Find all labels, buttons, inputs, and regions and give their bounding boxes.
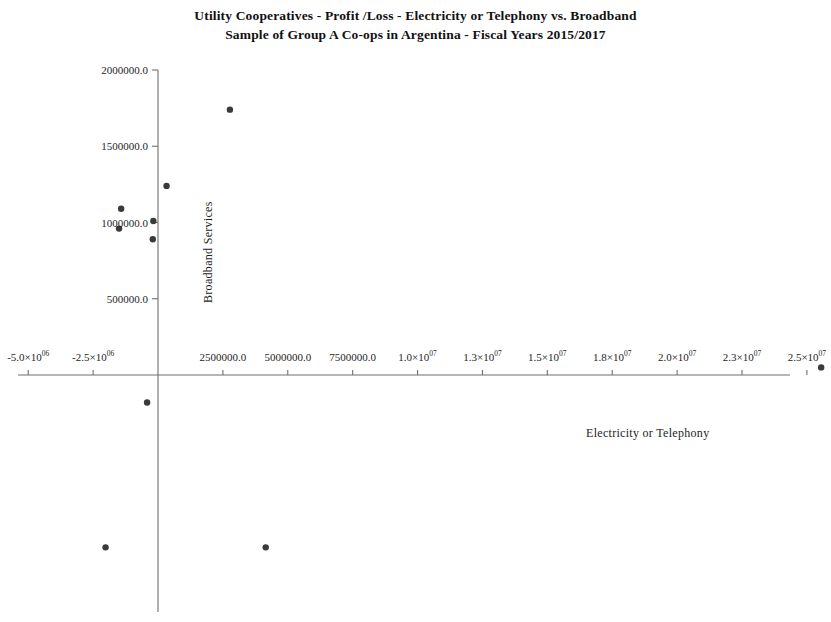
- y-axis-title: Broadband Services: [201, 201, 216, 303]
- x-tick-label: 2.5×1007: [788, 351, 826, 363]
- chart-canvas: Utility Cooperatives - Profit /Loss - El…: [0, 0, 831, 622]
- data-point: [102, 544, 108, 550]
- data-point: [118, 206, 124, 212]
- scatter-plot-svg: [0, 0, 831, 622]
- x-tick-label: 1.5×1007: [528, 351, 566, 363]
- plot-area: -5.0×1006-2.5×10062500000.05000000.07500…: [0, 0, 831, 622]
- x-tick-label: -5.0×1006: [7, 351, 49, 363]
- x-tick-label: 1.0×1007: [398, 351, 436, 363]
- y-tick-label: 2000000.0: [78, 64, 148, 76]
- data-point: [818, 364, 824, 370]
- x-tick-label: 2.3×1007: [723, 351, 761, 363]
- data-point: [150, 218, 156, 224]
- y-tick-label: 500000.0: [78, 293, 148, 305]
- data-point: [227, 106, 233, 112]
- x-tick-label: 1.3×1007: [463, 351, 501, 363]
- x-tick-label: 7500000.0: [329, 351, 376, 363]
- x-tick-label: 2.0×1007: [658, 351, 696, 363]
- data-point: [144, 399, 150, 405]
- data-point: [150, 236, 156, 242]
- data-point: [263, 544, 269, 550]
- x-tick-label: 5000000.0: [264, 351, 311, 363]
- x-axis-title: Electricity or Telephony: [586, 426, 709, 441]
- x-tick-label: 2500000.0: [200, 351, 247, 363]
- x-tick-label: 1.8×1007: [593, 351, 631, 363]
- y-tick-label: 1000000.0: [78, 217, 148, 229]
- y-tick-label: 1500000.0: [78, 140, 148, 152]
- x-tick-label: -2.5×1006: [72, 351, 114, 363]
- data-point: [163, 183, 169, 189]
